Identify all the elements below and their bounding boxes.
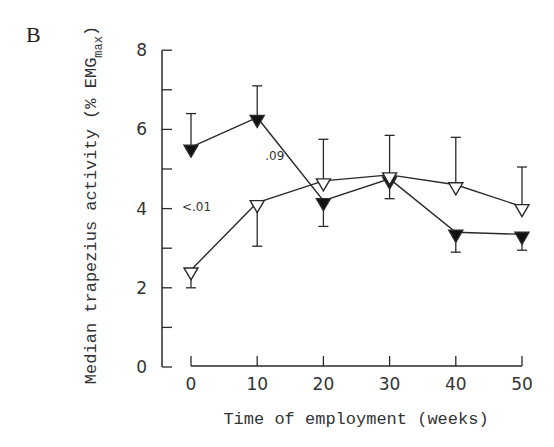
x-tick-label: 0 <box>186 374 197 394</box>
filled-triangle-marker <box>250 115 264 127</box>
open-triangle-marker <box>316 179 330 191</box>
p-value-annotation: .09 <box>265 149 284 163</box>
filled-triangle-marker <box>184 145 198 157</box>
open-triangle-marker <box>184 268 198 280</box>
open-triangle-marker <box>515 205 529 217</box>
filled-triangle-marker <box>316 199 330 211</box>
y-tick-label: 4 <box>136 199 147 219</box>
line-chart: 0246801020304050Time of employment (week… <box>0 0 554 447</box>
y-tick-label: 0 <box>136 357 147 377</box>
series-filled-line <box>191 117 522 234</box>
y-tick-label: 6 <box>136 119 147 139</box>
y-tick-label: 2 <box>136 278 147 298</box>
y-axis-title: Median trapezius activity (% EMGmax) <box>82 26 106 384</box>
x-tick-label: 50 <box>511 374 533 394</box>
filled-triangle-marker <box>515 232 529 244</box>
y-tick-label: 8 <box>136 40 147 60</box>
open-triangle-marker <box>449 183 463 195</box>
x-tick-label: 20 <box>313 374 335 394</box>
x-tick-label: 10 <box>246 374 268 394</box>
x-axis-title: Time of employment (weeks) <box>223 410 488 429</box>
x-tick-label: 30 <box>379 374 401 394</box>
x-tick-label: 40 <box>445 374 467 394</box>
filled-triangle-marker <box>449 230 463 242</box>
p-value-annotation: <.01 <box>182 200 211 214</box>
